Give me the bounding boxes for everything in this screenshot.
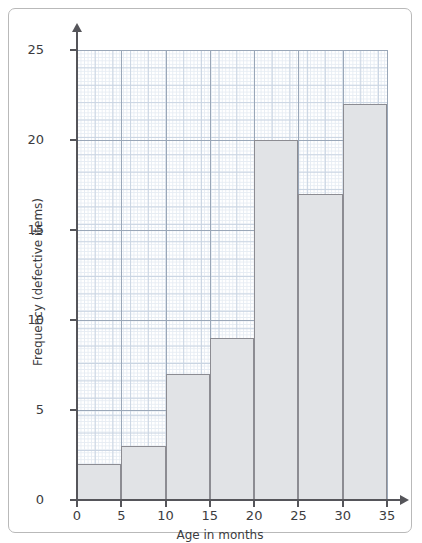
- x-axis-tick-label: 35: [367, 509, 407, 522]
- histogram-bar: [121, 446, 165, 500]
- histogram-bar: [210, 338, 254, 500]
- y-axis-tick: [70, 409, 78, 411]
- plot-area: [77, 50, 387, 500]
- x-axis-tick: [120, 500, 122, 507]
- x-axis-tick: [386, 500, 388, 507]
- x-axis-tick-label: 5: [101, 509, 141, 522]
- y-axis-tick-label: 25: [4, 43, 44, 56]
- y-axis-tick-label: 5: [4, 403, 44, 416]
- chart-frame: 0510152025 05101520253035 Age in months …: [8, 8, 412, 533]
- y-axis-tick: [70, 229, 78, 231]
- y-axis-line: [76, 31, 78, 502]
- x-axis-title: Age in months: [9, 528, 422, 542]
- arrow-right-icon: [400, 495, 409, 505]
- x-axis-tick-label: 0: [57, 509, 97, 522]
- y-axis-tick: [70, 49, 78, 51]
- gridline-horizontal: [77, 140, 387, 141]
- x-axis-tick: [165, 500, 167, 507]
- x-axis-tick-label: 15: [190, 509, 230, 522]
- x-axis-tick: [209, 500, 211, 507]
- arrow-up-icon: [72, 23, 82, 32]
- y-axis-title: Frequency (defective items): [31, 167, 45, 397]
- histogram-bar: [77, 464, 121, 500]
- x-axis-tick: [76, 500, 78, 507]
- x-axis-tick: [253, 500, 255, 507]
- x-axis-tick: [297, 500, 299, 507]
- histogram-bar: [343, 104, 387, 500]
- x-axis-tick: [342, 500, 344, 507]
- x-axis-tick-label: 20: [234, 509, 274, 522]
- x-axis-line: [77, 499, 402, 501]
- gridline-vertical: [387, 50, 388, 500]
- histogram-bar: [166, 374, 210, 500]
- y-axis-tick-label: 0: [4, 493, 44, 506]
- gridline-vertical: [121, 50, 122, 500]
- x-axis-tick-label: 25: [278, 509, 318, 522]
- x-axis-tick-label: 30: [323, 509, 363, 522]
- y-axis-tick: [70, 139, 78, 141]
- y-axis-tick-label: 20: [4, 133, 44, 146]
- histogram-bar: [298, 194, 342, 500]
- y-axis-tick: [70, 319, 78, 321]
- x-axis-tick-label: 10: [146, 509, 186, 522]
- gridline-horizontal: [77, 50, 387, 51]
- histogram-bar: [254, 140, 298, 500]
